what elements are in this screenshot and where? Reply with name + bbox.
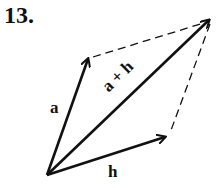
- label-h: h: [108, 162, 117, 182]
- vector-diagram: 13. a h a + h: [0, 0, 219, 188]
- vector-sum-arrow: [47, 20, 209, 175]
- vector-h-arrow: [47, 137, 165, 175]
- label-a: a: [50, 98, 59, 118]
- dashed-side-right: [170, 24, 210, 133]
